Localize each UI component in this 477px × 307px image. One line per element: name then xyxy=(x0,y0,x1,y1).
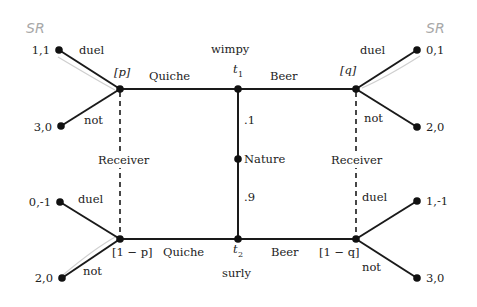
terminal-tr-duel xyxy=(413,46,421,54)
type-t1-subscript: 1 xyxy=(238,70,243,79)
edge-bl-duel xyxy=(60,202,120,239)
node-type-wimpy xyxy=(234,85,242,93)
action-br-duel: duel xyxy=(362,190,388,204)
highlight-tr xyxy=(362,56,420,88)
belief-1-minus-p: [1 − p] xyxy=(112,245,153,259)
node-nature xyxy=(234,155,242,163)
type-surly-label: surly xyxy=(222,266,251,280)
terminal-br-duel xyxy=(413,197,421,205)
action-tl-not: not xyxy=(84,113,103,127)
annotation-sr-left: SR xyxy=(26,20,45,36)
terminal-bl-not xyxy=(58,274,66,282)
belief-q: [q] xyxy=(340,63,357,77)
nature-label: Nature xyxy=(244,152,285,166)
terminal-br-not xyxy=(413,274,421,282)
highlight-tl xyxy=(58,57,115,90)
payoff-bl-duel: 0,-1 xyxy=(29,195,51,209)
payoff-bl-not: 2,0 xyxy=(35,271,53,285)
node-receiver-tl xyxy=(116,85,124,93)
payoff-tr-not: 2,0 xyxy=(426,120,444,134)
node-receiver-tr xyxy=(352,85,360,93)
terminal-tl-duel xyxy=(55,46,63,54)
game-tree-diagram: SR SR 1,1 3,0 0,1 2,0 0,-1 2,0 1,-1 3,0 xyxy=(0,0,477,307)
prob-top: .1 xyxy=(244,113,255,127)
payoff-tl-duel: 1,1 xyxy=(32,43,50,57)
signal-beer-top: Beer xyxy=(270,69,298,83)
type-wimpy-label: wimpy xyxy=(211,42,250,56)
payoff-br-not: 3,0 xyxy=(426,271,444,285)
prob-bottom: .9 xyxy=(244,190,255,204)
info-set-right-label: Receiver xyxy=(331,153,383,167)
action-bl-not: not xyxy=(83,264,102,278)
terminal-tr-not xyxy=(413,123,421,131)
edge-br-duel xyxy=(356,201,417,239)
signal-quiche-bottom: Quiche xyxy=(163,245,204,259)
action-br-not: not xyxy=(362,260,381,274)
action-tr-not: not xyxy=(364,111,383,125)
node-receiver-bl xyxy=(116,235,124,243)
belief-1-minus-q: [1 − q] xyxy=(319,245,360,259)
terminal-tl-not xyxy=(57,122,65,130)
info-set-left-label: Receiver xyxy=(98,153,150,167)
belief-p: [p] xyxy=(114,65,131,79)
payoff-tl-not: 3,0 xyxy=(34,120,52,134)
action-tr-duel: duel xyxy=(360,43,386,57)
annotation-sr-right: SR xyxy=(426,20,445,36)
type-t2-subscript: 2 xyxy=(238,250,243,259)
signal-beer-bottom: Beer xyxy=(271,245,299,259)
node-receiver-br xyxy=(352,235,360,243)
payoff-tr-duel: 0,1 xyxy=(426,43,444,57)
terminal-bl-duel xyxy=(56,198,64,206)
action-bl-duel: duel xyxy=(78,192,104,206)
signal-quiche-top: Quiche xyxy=(149,69,190,83)
payoff-br-duel: 1,-1 xyxy=(426,194,448,208)
action-tl-duel: duel xyxy=(79,43,105,57)
